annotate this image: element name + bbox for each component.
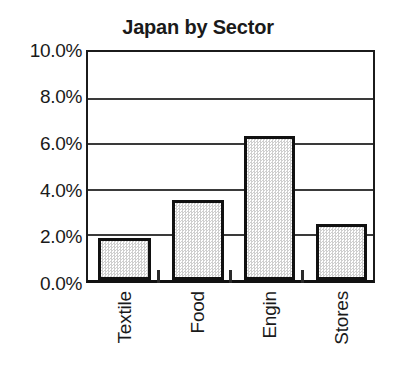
x-tick-2 [229, 270, 232, 283]
y-tick-label-10: 10.0% [0, 41, 82, 60]
gridline-8 [88, 98, 373, 100]
bar-engin [244, 136, 295, 280]
y-tick-label-8: 8.0% [0, 87, 82, 106]
bar-chart: Japan by Sector 10.0% 8.0% 6.0% 4.0% 2.0… [0, 0, 396, 379]
x-label-food: Food [187, 291, 209, 379]
y-tick-label-6: 6.0% [0, 134, 82, 153]
x-label-stores: Stores [331, 291, 353, 379]
x-axis-category-labels: Textile Food Engin Stores [86, 283, 375, 379]
x-tick-1 [157, 270, 160, 283]
x-label-engin: Engin [259, 291, 281, 379]
y-axis-tick-labels: 10.0% 8.0% 6.0% 4.0% 2.0% 0.0% [0, 0, 82, 379]
y-tick-label-4: 4.0% [0, 181, 82, 200]
y-tick-label-2: 2.0% [0, 227, 82, 246]
plot-area [86, 50, 375, 283]
y-tick-label-0: 0.0% [0, 274, 82, 293]
bar-food [172, 200, 224, 280]
gridline-6 [88, 143, 373, 145]
x-label-textile: Textile [114, 291, 136, 379]
bar-stores [316, 224, 367, 280]
gridline-4 [88, 189, 373, 191]
x-tick-3 [301, 270, 304, 283]
bar-textile [98, 238, 151, 280]
